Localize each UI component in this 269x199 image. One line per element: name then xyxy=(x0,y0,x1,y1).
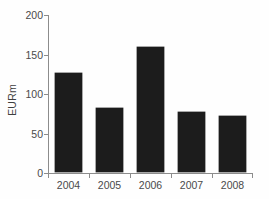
x-axis-tick-label: 2004 xyxy=(57,179,80,191)
bar xyxy=(219,116,246,172)
bar xyxy=(96,108,123,172)
y-axis-line xyxy=(48,15,49,174)
bar xyxy=(178,112,205,172)
bar xyxy=(137,47,164,172)
y-axis-tick-label: 200 xyxy=(25,9,43,21)
x-axis-line xyxy=(48,173,253,174)
y-axis-tick-mark xyxy=(44,94,48,95)
x-axis-tick-label: 2007 xyxy=(180,179,203,191)
x-axis-tick-label: 2006 xyxy=(139,179,162,191)
y-axis-tick-mark xyxy=(44,15,48,16)
x-axis-tick-mark xyxy=(48,174,49,178)
x-axis-tick-label: 2005 xyxy=(98,179,121,191)
y-axis-tick-label: 0 xyxy=(37,167,43,179)
x-axis-tick-mark xyxy=(89,174,90,178)
x-axis-tick-mark xyxy=(212,174,213,178)
plot-area: 050100150200 20042005200620072008 xyxy=(48,15,253,173)
bar-chart: EURm 050100150200 20042005200620072008 xyxy=(0,0,269,199)
x-axis-tick-mark xyxy=(171,174,172,178)
y-axis-tick-mark xyxy=(44,134,48,135)
y-axis-title-label: EURm xyxy=(6,84,18,116)
y-axis-tick-label: 150 xyxy=(25,49,43,61)
bar xyxy=(55,73,82,172)
y-axis-tick-mark xyxy=(44,55,48,56)
y-axis-tick-label: 50 xyxy=(31,128,43,140)
x-axis-tick-label: 2008 xyxy=(221,179,244,191)
x-axis-tick-mark xyxy=(130,174,131,178)
y-axis-title: EURm xyxy=(0,0,24,199)
y-axis-tick-label: 100 xyxy=(25,88,43,100)
x-axis-tick-mark xyxy=(252,174,253,178)
